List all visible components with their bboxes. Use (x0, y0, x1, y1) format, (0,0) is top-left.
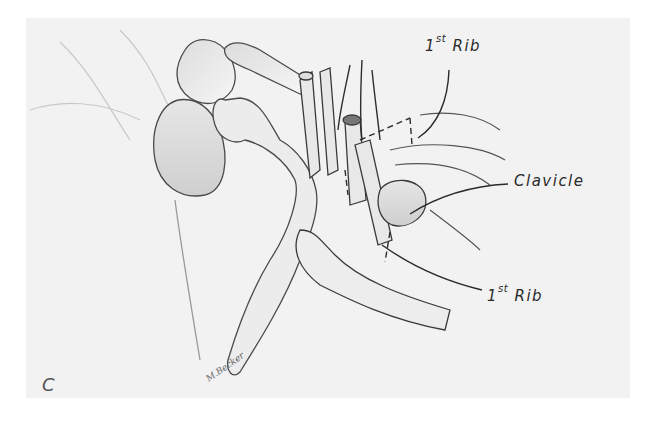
background-muscle-strokes (30, 30, 175, 140)
first-rib-lower (296, 230, 450, 330)
panel-letter: C (42, 374, 55, 395)
clavicle-bar (225, 43, 309, 94)
label-first-rib-top: 1st Rib (425, 36, 481, 55)
anatomical-drawing (0, 0, 654, 424)
clavicle-section (378, 180, 426, 226)
label-first-rib-bottom: 1st Rib (487, 286, 543, 305)
label-clavicle: Clavicle (514, 172, 585, 190)
